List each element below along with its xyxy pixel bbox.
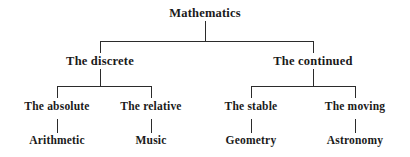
edge-discrete-stem: [100, 69, 101, 86]
edge-to-stable: [251, 86, 252, 98]
tree-diagram: Mathematics The discrete The continued T…: [0, 0, 410, 157]
node-the-continued: The continued: [273, 54, 352, 69]
edge-to-absolute: [57, 86, 58, 98]
edge-to-moving: [355, 86, 356, 98]
node-the-relative: The relative: [120, 100, 181, 112]
edge-top-bus: [100, 41, 314, 42]
edge-moving-astronomy: [355, 119, 356, 133]
edge-to-continued: [313, 41, 314, 53]
node-the-absolute: The absolute: [24, 100, 89, 112]
node-the-stable: The stable: [225, 100, 278, 112]
node-the-discrete: The discrete: [66, 54, 134, 69]
node-arithmetic: Arithmetic: [29, 134, 85, 146]
edge-to-relative: [151, 86, 152, 98]
node-the-moving: The moving: [325, 100, 385, 112]
edge-absolute-arithmetic: [57, 119, 58, 133]
edge-right-bus: [251, 86, 356, 87]
node-music: Music: [135, 134, 166, 146]
node-geometry: Geometry: [226, 134, 277, 146]
edge-continued-stem: [313, 69, 314, 86]
node-mathematics: Mathematics: [169, 6, 241, 21]
edge-relative-music: [151, 119, 152, 133]
edge-stable-geometry: [251, 119, 252, 133]
edge-root-stem: [205, 21, 206, 41]
edge-to-discrete: [100, 41, 101, 53]
node-astronomy: Astronomy: [327, 134, 384, 146]
edge-left-bus: [57, 86, 152, 87]
